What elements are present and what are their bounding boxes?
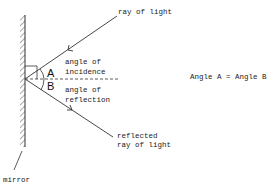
reflection-diagram: A B ray of light angle of incidence angl… xyxy=(0,0,280,188)
angle-b-label: B xyxy=(47,80,54,92)
equation-label: Angle A = Angle B xyxy=(190,73,267,81)
angle-reflection-label-1: angle of xyxy=(65,86,102,94)
angle-incidence-label-1: angle of xyxy=(65,58,102,66)
angle-b-arc xyxy=(41,79,44,90)
mirror-leader-line xyxy=(14,151,22,170)
angle-a-arc xyxy=(40,69,44,79)
angle-incidence-label-2: incidence xyxy=(65,68,106,76)
angle-reflection-label-2: reflection xyxy=(65,96,110,104)
reflected-ray-label-2: ray of light xyxy=(117,141,171,149)
angle-a-label: A xyxy=(47,67,55,79)
incident-ray-label: ray of light xyxy=(118,8,172,16)
mirror xyxy=(20,15,25,147)
reflected-ray-label-1: reflected xyxy=(117,132,158,140)
mirror-label: mirror xyxy=(3,176,30,184)
